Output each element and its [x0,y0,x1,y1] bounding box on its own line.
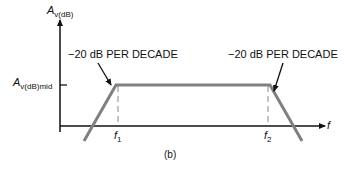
x-axis-label: f [327,119,330,131]
right-slope-annotation: −20 dB PER DECADE [228,48,338,60]
left-slope-annotation: −20 dB PER DECADE [68,48,178,60]
f1-label: f1 [114,129,122,141]
y-axis-label: Av(dB) [47,4,73,16]
f2-label: f2 [264,129,272,141]
figure-caption: (b) [164,149,176,160]
mid-gain-label: Av(dB)mid [13,76,52,88]
